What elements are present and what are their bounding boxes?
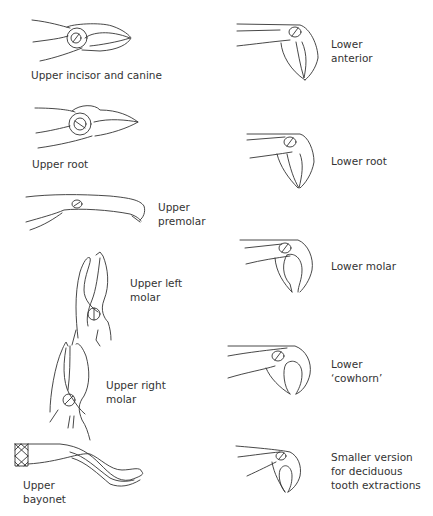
label-line: for deciduous — [331, 464, 421, 478]
label-line: Upper incisor and canine — [31, 68, 162, 82]
label-line: premolar — [158, 214, 206, 228]
label-line: Lower root — [331, 154, 387, 168]
label-line: Upper root — [32, 157, 88, 171]
lower-root-drawing — [247, 134, 314, 188]
label-line: Lower — [331, 37, 373, 51]
label-line: Smaller version — [331, 450, 421, 464]
label-upper-left-molar: Upper left molar — [130, 276, 182, 304]
label-lower-anterior: Lower anterior — [331, 37, 373, 65]
label-lower-deciduous: Smaller version for deciduous tooth extr… — [331, 450, 421, 492]
lower-deciduous-drawing — [236, 446, 301, 492]
label-line: bayonet — [23, 492, 66, 506]
label-line: Lower — [331, 357, 382, 371]
label-upper-incisor-canine: Upper incisor and canine — [31, 68, 162, 82]
upper-premolar-drawing — [26, 195, 145, 230]
label-line: molar — [130, 290, 182, 304]
upper-incisor-canine-drawing — [32, 20, 131, 61]
label-lower-cowhorn: Lower ‘cowhorn’ — [331, 357, 382, 385]
label-line: Upper — [158, 200, 206, 214]
upper-right-molar-drawing — [50, 342, 90, 440]
label-line: Upper — [23, 478, 66, 492]
label-lower-molar: Lower molar — [331, 259, 396, 273]
label-line: Lower molar — [331, 259, 396, 273]
lower-molar-drawing — [240, 240, 312, 292]
label-upper-right-molar: Upper right molar — [106, 378, 166, 406]
lower-anterior-drawing — [237, 24, 318, 80]
label-line: ‘cowhorn’ — [331, 371, 382, 385]
label-line: Upper left — [130, 276, 182, 290]
label-upper-root: Upper root — [32, 157, 88, 171]
label-upper-bayonet: Upper bayonet — [23, 478, 66, 506]
upper-left-molar-drawing — [72, 252, 111, 346]
label-line: Upper right — [106, 378, 166, 392]
label-line: molar — [106, 392, 166, 406]
lower-cowhorn-drawing — [228, 346, 310, 394]
forceps-diagram: Upper incisor and canine Upper root Uppe… — [0, 0, 433, 516]
label-upper-premolar: Upper premolar — [158, 200, 206, 228]
upper-root-drawing — [35, 106, 138, 148]
label-line: anterior — [331, 51, 373, 65]
label-line: tooth extractions — [331, 478, 421, 492]
label-lower-root: Lower root — [331, 154, 387, 168]
